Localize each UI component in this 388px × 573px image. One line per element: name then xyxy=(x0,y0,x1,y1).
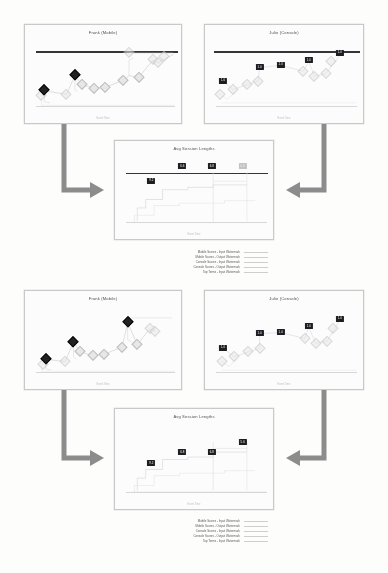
legend-swatch xyxy=(244,252,268,253)
legend-swatch xyxy=(244,541,268,542)
legend-swatch xyxy=(244,531,268,532)
plot-area: 9.2 6.6 6.8 6.6 xyxy=(126,163,267,224)
legend-item: Console Scores - Input Watermark xyxy=(120,260,268,264)
arrow-left-to-center-bottom xyxy=(58,390,110,468)
value-label-badge: 6.6 xyxy=(178,163,186,169)
panel-title: Julie (Console) xyxy=(205,296,363,301)
panel-title: Frank (Mobile) xyxy=(25,30,181,35)
legend-swatch xyxy=(244,526,268,527)
value-label-badge: 1.0 xyxy=(256,64,264,70)
legend-label: Mobile Scores - Input Watermark xyxy=(198,519,240,523)
legend-bottom: Mobile Scores - Input Watermark Mobile S… xyxy=(120,519,268,543)
x-axis-label: Event Time xyxy=(25,383,181,386)
x-axis-label: Event Time xyxy=(205,383,363,386)
legend-label: Top Terms - Input Watermark xyxy=(203,539,240,543)
legend-item: Mobile Scores - Output Watermark xyxy=(120,255,268,259)
legend-label: Console Scores - Input Watermark xyxy=(196,529,240,533)
x-axis xyxy=(216,372,357,373)
value-label-badge: 1.0 xyxy=(277,62,285,68)
legend-swatch xyxy=(244,272,268,273)
value-label-badge: 1.0 xyxy=(305,323,313,329)
chart-panel-julie-console-top[interactable]: Julie (Console) 1.0 1.0 1.0 1.0 1.0 Even… xyxy=(204,24,364,124)
value-label-badge: 1.0 xyxy=(305,57,313,63)
legend-label: Console Scores - Output Watermark xyxy=(194,534,240,538)
x-axis-label: Event Time xyxy=(115,233,273,236)
value-label-badge: 6.6 xyxy=(239,163,247,169)
figure-page: Frank (Mobile) Ev xyxy=(0,0,388,573)
legend-label: Mobile Scores - Output Watermark xyxy=(196,524,240,528)
value-label-badge: 5.6 xyxy=(239,439,247,445)
legend-item: Top Terms - Input Watermark xyxy=(120,270,268,274)
x-axis-label: Event Time xyxy=(205,117,363,120)
series-lines xyxy=(36,313,175,374)
legend-label: Mobile Scores - Output Watermark xyxy=(196,255,240,259)
value-label-badge: 1.0 xyxy=(219,78,227,84)
chart-panel-avg-session-lengths-top[interactable]: Avg Session Lengths 9.2 6.6 6.8 6.6 Even… xyxy=(114,140,274,240)
legend-label: Console Scores - Output Watermark xyxy=(194,265,240,269)
legend-item: Console Scores - Output Watermark xyxy=(120,265,268,269)
legend-item: Console Scores - Input Watermark xyxy=(120,529,268,533)
chart-panel-frank-mobile-top[interactable]: Frank (Mobile) Ev xyxy=(24,24,182,124)
series-lines xyxy=(216,313,357,374)
value-label-badge: 1.0 xyxy=(219,345,227,351)
value-label-badge: 1.0 xyxy=(336,50,344,56)
plot-area: 9.2 6.8 6.8 5.6 xyxy=(126,431,267,493)
legend-item: Mobile Scores - Output Watermark xyxy=(120,524,268,528)
legend-swatch xyxy=(244,521,268,522)
plot-area xyxy=(36,47,175,108)
value-label-badge: 9.2 xyxy=(147,178,155,184)
value-label-badge: 9.2 xyxy=(147,460,155,466)
value-label-badge: 1.0 xyxy=(336,316,344,322)
value-label-badge: 6.8 xyxy=(208,449,216,455)
panel-title: Frank (Mobile) xyxy=(25,296,181,301)
panel-title: Avg Session Lengths xyxy=(115,146,273,151)
x-axis xyxy=(36,372,175,373)
legend-label: Console Scores - Input Watermark xyxy=(196,260,240,264)
legend-top: Mobile Scores - Input Watermark Mobile S… xyxy=(120,250,268,274)
legend-swatch xyxy=(244,536,268,537)
arrow-right-to-center-bottom xyxy=(278,390,332,468)
legend-label: Mobile Scores - Input Watermark xyxy=(198,250,240,254)
x-axis xyxy=(126,222,267,223)
legend-item: Console Scores - Output Watermark xyxy=(120,534,268,538)
plot-area: 1.0 1.0 1.0 1.0 1.0 xyxy=(216,47,357,108)
panel-title: Avg Session Lengths xyxy=(115,414,273,419)
x-axis xyxy=(216,106,357,107)
legend-item: Top Terms - Input Watermark xyxy=(120,539,268,543)
x-axis xyxy=(126,492,267,493)
value-label-badge: 1.0 xyxy=(256,330,264,336)
arrow-left-to-center-top xyxy=(58,124,110,200)
x-axis-label: Event Time xyxy=(115,503,273,506)
plot-area xyxy=(36,313,175,374)
legend-swatch xyxy=(244,267,268,268)
value-label-badge: 1.0 xyxy=(277,329,285,335)
chart-panel-avg-session-lengths-bottom[interactable]: Avg Session Lengths 9.2 6.8 6.8 5.6 Even… xyxy=(114,408,274,510)
x-axis xyxy=(36,106,175,107)
arrow-right-to-center-top xyxy=(278,124,332,200)
legend-item: Mobile Scores - Input Watermark xyxy=(120,250,268,254)
series-lines xyxy=(216,47,357,108)
legend-swatch xyxy=(244,257,268,258)
value-label-badge: 6.8 xyxy=(208,163,216,169)
plot-area: 1.0 1.0 1.0 1.0 1.0 xyxy=(216,313,357,374)
panel-title: Julie (Console) xyxy=(205,30,363,35)
value-label-badge: 6.8 xyxy=(178,449,186,455)
legend-swatch xyxy=(244,262,268,263)
chart-panel-julie-console-bottom[interactable]: Julie (Console) 1.0 1.0 1.0 1.0 1.0 Even… xyxy=(204,290,364,390)
chart-panel-frank-mobile-bottom[interactable]: Frank (Mobile) Event Time xyxy=(24,290,182,390)
legend-item: Mobile Scores - Input Watermark xyxy=(120,519,268,523)
x-axis-label: Event Time xyxy=(25,117,181,120)
series-lines xyxy=(126,163,267,224)
legend-label: Top Terms - Input Watermark xyxy=(203,270,240,274)
